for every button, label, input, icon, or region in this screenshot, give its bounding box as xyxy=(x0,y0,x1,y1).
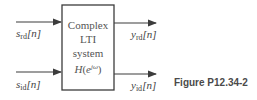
output-index: [n] xyxy=(142,79,156,91)
transfer-function: H(ejω) xyxy=(62,60,114,76)
output-label-yrd: yrd[n] xyxy=(131,28,157,44)
input-subscript: rd xyxy=(20,32,27,41)
figure-caption: Figure P12.34-2 xyxy=(174,77,248,88)
transfer-arg-exp: jω xyxy=(91,63,98,71)
output-label-yid: yid[n] xyxy=(131,79,156,95)
input-index: [n] xyxy=(27,27,41,39)
transfer-fn-name: H xyxy=(74,63,82,75)
input-index: [n] xyxy=(27,78,41,90)
block-line-system: system xyxy=(62,46,114,60)
output-index: [n] xyxy=(143,28,157,40)
input-label-srd: srd[n] xyxy=(16,27,41,43)
block-line-lti: LTI xyxy=(62,32,114,46)
block-line-complex: Complex xyxy=(62,18,114,32)
output-subscript: rd xyxy=(136,33,143,42)
input-label-sid: sid[n] xyxy=(16,78,41,94)
system-block-label: Complex LTI system H(ejω) xyxy=(62,18,114,76)
